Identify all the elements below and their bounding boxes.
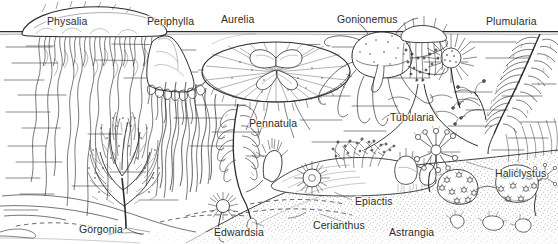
- label-epiactis: Epiactis: [355, 196, 393, 207]
- label-haliclystus: Haliclystus: [495, 168, 546, 179]
- label-gonionemus: Gonionemus: [337, 14, 398, 25]
- label-physalia: Physalia: [47, 16, 88, 27]
- label-aurelia: Aurelia: [221, 14, 254, 25]
- label-edwardsia: Edwardsia: [214, 227, 264, 238]
- label-periphylla: Periphylla: [147, 16, 194, 27]
- label-tubularia: Tubularia: [390, 112, 434, 123]
- label-cerianthus: Cerianthus: [313, 220, 365, 231]
- label-gorgonia: Gorgonia: [79, 224, 123, 235]
- label-astrangia: Astrangia: [389, 227, 434, 238]
- label-plumularia: Plumularia: [486, 16, 537, 27]
- label-pennatula: Pennatula: [249, 118, 297, 129]
- illustration-canvas: Physalia Periphylla Aurelia Gonionemus P…: [0, 0, 558, 244]
